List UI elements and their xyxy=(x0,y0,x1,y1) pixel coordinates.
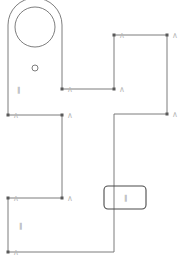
vertex-point[interactable] xyxy=(7,251,10,254)
vertex-point[interactable] xyxy=(7,197,10,200)
dimension-label: ‖ xyxy=(124,194,128,202)
large-hole-circle[interactable] xyxy=(15,7,55,47)
dimension-label: ‖ xyxy=(19,222,23,230)
dimension-label: ‖ xyxy=(17,86,21,94)
dimension-labels: ‖‖‖ xyxy=(17,86,128,230)
vertex-point[interactable] xyxy=(113,34,116,37)
small-hole-circle[interactable] xyxy=(32,65,38,71)
sketch-canvas[interactable]: ∧∧∧∧∧∧∧∧∧∧ ‖‖‖ xyxy=(0,0,185,263)
coincident-constraint-icon: ∧ xyxy=(172,110,178,119)
coincident-constraint-icon: ∧ xyxy=(119,31,125,40)
coincident-constraint-icon: ∧ xyxy=(13,194,19,203)
coincident-constraint-icon: ∧ xyxy=(13,111,19,120)
vertex-point[interactable] xyxy=(61,197,64,200)
vertex-point[interactable] xyxy=(7,114,10,117)
constraint-markers: ∧∧∧∧∧∧∧∧∧∧ xyxy=(13,31,178,257)
vertex-point[interactable] xyxy=(166,113,169,116)
coincident-constraint-icon: ∧ xyxy=(172,31,178,40)
sketch-geometry xyxy=(8,0,167,252)
vertex-point[interactable] xyxy=(166,34,169,37)
vertex-point[interactable] xyxy=(113,88,116,91)
coincident-constraint-icon: ∧ xyxy=(119,85,125,94)
coincident-constraint-icon: ∧ xyxy=(67,194,73,203)
coincident-constraint-icon: ∧ xyxy=(67,111,73,120)
vertex-point[interactable] xyxy=(61,88,64,91)
coincident-constraint-icon: ∧ xyxy=(13,248,19,257)
coincident-constraint-icon: ∧ xyxy=(67,85,73,94)
vertex-point[interactable] xyxy=(61,114,64,117)
sketch-vertices xyxy=(7,34,169,254)
